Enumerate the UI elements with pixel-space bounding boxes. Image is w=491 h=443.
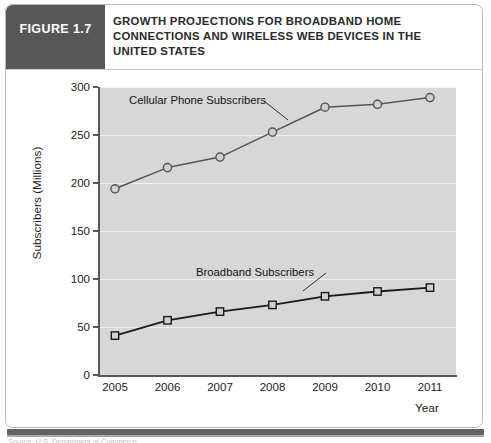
x-tick-label-2011: 2011: [418, 381, 443, 393]
figure-frame: FIGURE 1.7 GROWTH PROJECTIONS FOR BROADB…: [5, 4, 483, 428]
figure-title: GROWTH PROJECTIONS FOR BROADBAND HOME CO…: [113, 14, 471, 60]
gridline-250: [99, 135, 456, 136]
figure-title-line-3: UNITED STATES: [113, 44, 471, 59]
plot-area: [99, 87, 456, 375]
y-tick-label-250: 250: [6, 129, 90, 141]
y-tick-label-200: 200: [6, 177, 90, 189]
x-tick-label-2006: 2006: [155, 381, 181, 393]
figure-number-label: FIGURE 1.7: [6, 22, 105, 36]
y-tick-mark-50: [93, 326, 98, 327]
y-axis-title: Subscribers (Millions): [30, 113, 44, 293]
figure-number-badge: FIGURE 1.7: [6, 5, 105, 69]
x-tick-label-2005: 2005: [102, 381, 128, 393]
gridline-200: [99, 183, 456, 184]
annotation-broadband-subscribers: Broadband Subscribers: [196, 266, 314, 278]
y-tick-label-0: 0: [6, 369, 90, 381]
x-tick-label-2007: 2007: [207, 381, 233, 393]
gridline-50: [99, 327, 456, 328]
x-tick-label-2009: 2009: [312, 381, 338, 393]
gridline-100: [99, 279, 456, 280]
x-tick-label-2010: 2010: [365, 381, 391, 393]
figure-caption-clipped: Source: U.S. Department of Commerce: [8, 437, 482, 443]
x-tick-label-2008: 2008: [260, 381, 286, 393]
y-tick-mark-100: [93, 278, 98, 279]
gridline-300: [99, 87, 456, 88]
annotation-cellular-phone-subscribers: Cellular Phone Subscribers: [129, 94, 266, 106]
y-tick-mark-150: [93, 230, 98, 231]
x-axis-line: [98, 375, 457, 377]
figure-title-line-1: GROWTH PROJECTIONS FOR BROADBAND HOME: [113, 14, 471, 29]
y-tick-label-150: 150: [6, 225, 90, 237]
figure-title-line-2: CONNECTIONS AND WIRELESS WEB DEVICES IN …: [113, 29, 471, 44]
y-axis-line: [98, 87, 100, 376]
y-tick-mark-250: [93, 134, 98, 135]
y-tick-mark-200: [93, 182, 98, 183]
y-tick-mark-300: [93, 86, 98, 87]
y-tick-label-50: 50: [6, 321, 90, 333]
figure-root: FIGURE 1.7 GROWTH PROJECTIONS FOR BROADB…: [0, 0, 491, 443]
x-axis-title: Year: [415, 401, 439, 415]
y-tick-mark-0: [93, 374, 98, 375]
chart-canvas: 050100150200250300 200520062007200820092…: [6, 70, 483, 422]
figure-header: FIGURE 1.7 GROWTH PROJECTIONS FOR BROADB…: [6, 5, 483, 69]
y-tick-label-100: 100: [6, 273, 90, 285]
gridline-150: [99, 231, 456, 232]
y-tick-label-300: 300: [6, 81, 90, 93]
